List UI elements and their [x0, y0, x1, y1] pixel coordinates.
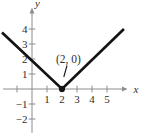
y-tick-label-1: 1 — [22, 68, 28, 80]
y-tick-label--1: −1 — [16, 98, 28, 110]
y-tick-label-4: 4 — [22, 23, 28, 35]
axis-label-x: x — [133, 83, 139, 95]
x-tick-label-5: 5 — [104, 93, 110, 105]
x-tick-label-4: 4 — [89, 93, 95, 105]
x-tick-label-3: 3 — [74, 93, 80, 105]
x-axis-arrowhead — [122, 87, 128, 92]
axis-label-y: y — [34, 0, 40, 9]
graph-canvas: 12345−2−11234xy(2, 0) — [0, 0, 142, 136]
annotation-pointer-line — [64, 66, 67, 78]
figure: 12345−2−11234xy(2, 0) — [0, 0, 142, 136]
vertex-annotation: (2, 0) — [56, 53, 81, 66]
vertex-point — [59, 86, 65, 92]
y-tick-label-3: 3 — [22, 38, 28, 50]
y-tick-label--2: −2 — [16, 113, 28, 125]
x-tick-label-1: 1 — [44, 93, 50, 105]
y-axis-arrowhead — [30, 8, 35, 14]
x-tick-label-2: 2 — [59, 93, 65, 105]
